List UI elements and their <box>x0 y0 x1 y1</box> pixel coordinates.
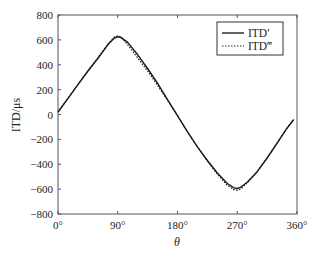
x-tick-label: 360° <box>287 219 308 231</box>
y-tick-label: 0 <box>48 109 54 121</box>
x-tick-label: 180° <box>167 219 188 231</box>
legend-label-itd-prime: ITD′ <box>248 27 270 39</box>
series-lines <box>58 36 294 191</box>
x-axis-title: θ <box>174 235 180 249</box>
y-tick-label: 800 <box>37 9 54 21</box>
y-tick-label: 600 <box>37 34 54 46</box>
x-tick-label: 90° <box>110 219 125 231</box>
legend: ITD′ ITD‴ <box>217 22 283 55</box>
y-tick-label: 200 <box>37 84 54 96</box>
line-chart: 8006004002000−200−400−600−800 0°90°180°2… <box>0 0 320 259</box>
y-axis: 8006004002000−200−400−600−800 <box>30 9 61 220</box>
y-tick-label: −400 <box>30 158 53 170</box>
y-tick-label: −800 <box>30 208 53 220</box>
x-tick-label: 270° <box>227 219 248 231</box>
x-tick-label: 0° <box>53 219 63 231</box>
series-itd-prime-line <box>58 37 294 189</box>
y-axis-title: ITD/μs <box>9 97 23 132</box>
y-tick-label: −200 <box>30 133 53 145</box>
y-tick-label: −600 <box>30 183 53 195</box>
legend-label-itd-triple-prime: ITD‴ <box>248 40 272 52</box>
y-tick-label: 400 <box>37 59 54 71</box>
